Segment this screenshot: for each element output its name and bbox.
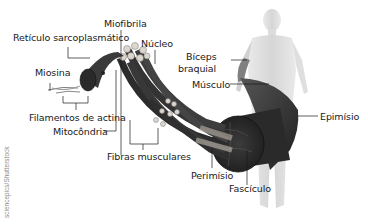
label-filamentos-de-actina: Filamentos de actina xyxy=(29,112,126,123)
label-miofibrila: Miofibrila xyxy=(104,18,147,29)
label-mitocondria: Mitocôndria xyxy=(53,126,108,137)
label-fibras-musculares: Fibras musculares xyxy=(107,151,191,162)
label-fasciculo: Fascículo xyxy=(229,183,271,194)
label-musculo: Músculo xyxy=(192,79,230,90)
label-nucleo: Núcleo xyxy=(141,38,173,49)
label-biceps: Bíceps xyxy=(186,51,217,62)
label-miosina: Miosina xyxy=(35,67,70,78)
filaments xyxy=(48,86,80,93)
label-epimisio: Epimísio xyxy=(320,111,359,122)
label-reticulo-sarcoplasmatico: Retículo sarcoplasmático xyxy=(13,32,129,43)
image-credit: sciencepics/Shutterstock xyxy=(3,146,10,218)
label-perimisio: Perimísio xyxy=(191,170,233,181)
label-braquial: braquial xyxy=(178,63,216,74)
muscle-structure-diagram: Miofibrila Retículo sarcoplasmático Núcl… xyxy=(0,0,368,224)
